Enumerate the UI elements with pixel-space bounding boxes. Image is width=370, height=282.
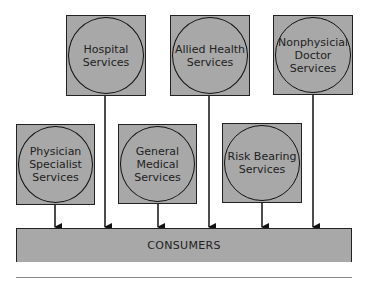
physician-specialist-services-node: Physician Specialist Services xyxy=(16,124,95,205)
divider xyxy=(16,277,352,278)
node-label: General Medical Services xyxy=(134,145,180,184)
node-label: Risk Bearing Services xyxy=(228,150,297,176)
node-label: Nonphysicial Doctor Services xyxy=(278,36,348,75)
allied-health-services-node: Allied Health Services xyxy=(170,15,250,96)
consumers-label: CONSUMERS xyxy=(147,239,220,252)
node-label: Allied Health Services xyxy=(175,43,245,69)
consumers-bar: CONSUMERS xyxy=(16,228,352,262)
general-medical-services-node: General Medical Services xyxy=(118,124,197,204)
hospital-services-node: Hospital Services xyxy=(66,15,146,96)
risk-bearing-services-node: Risk Bearing Services xyxy=(222,123,302,203)
node-label: Hospital Services xyxy=(83,43,129,69)
nonphysician-doctor-services-node: Nonphysicial Doctor Services xyxy=(273,15,353,95)
node-label: Physician Specialist Services xyxy=(29,145,82,184)
